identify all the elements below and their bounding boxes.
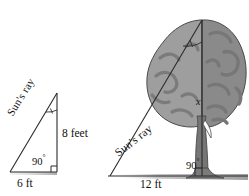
left-right-angle-value: 90: [32, 156, 43, 167]
left-base-label: 6 ft: [17, 178, 33, 190]
right-angle-square-marker-left: [51, 166, 57, 172]
right-right-angle-label: 90°: [186, 158, 200, 171]
right-base-label: 12 ft: [140, 179, 161, 191]
right-degree-symbol: °: [197, 157, 200, 166]
figure-canvas: Sun's ray 8 feet 90° 6 ft Sun's ray x 90…: [0, 0, 249, 196]
left-vertical-label: 8 feet: [62, 128, 88, 140]
right-vertical-label: x: [196, 97, 200, 107]
left-degree-symbol: °: [43, 153, 46, 162]
left-right-angle-label: 90°: [32, 154, 46, 167]
right-right-angle-value: 90: [186, 160, 197, 171]
tree-figure-group: [108, 20, 248, 180]
angle-tick-left: [51, 109, 53, 114]
ground-shadow: [108, 174, 248, 180]
